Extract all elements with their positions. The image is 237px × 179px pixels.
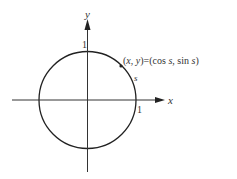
y-axis-arrow-icon xyxy=(85,19,91,30)
x-axis-arrow-icon xyxy=(155,97,165,103)
unit-circle-diagram: x y 1 1 (x, y)=(cos s, sin s) s xyxy=(0,0,237,179)
diagram-canvas: x y 1 1 (x, y)=(cos s, sin s) s xyxy=(0,0,237,179)
arc-length-label: s xyxy=(134,73,138,83)
x-axis-label: x xyxy=(167,94,173,106)
y-tick-label-1: 1 xyxy=(82,39,87,50)
y-axis-label: y xyxy=(84,8,90,20)
x-tick-label-1: 1 xyxy=(137,104,142,115)
point-label: (x, y)=(cos s, sin s) xyxy=(123,55,199,67)
